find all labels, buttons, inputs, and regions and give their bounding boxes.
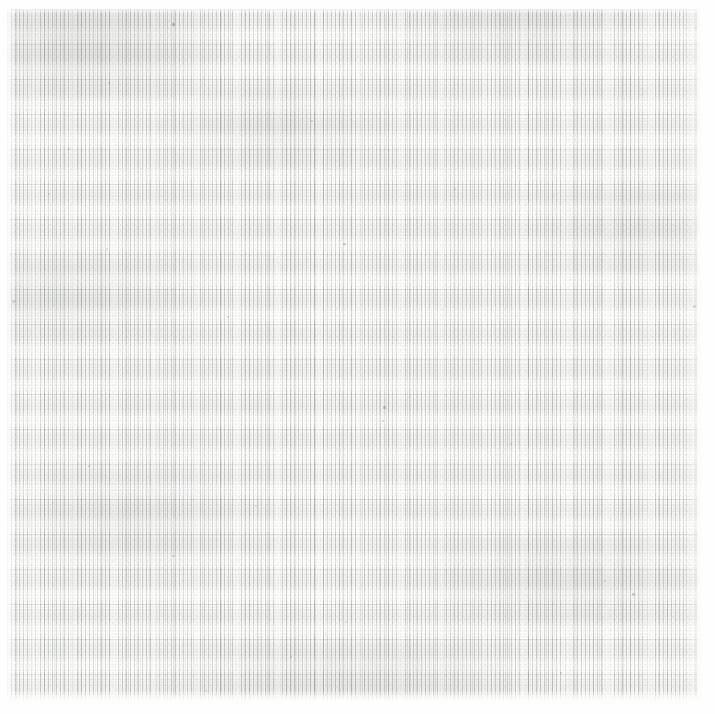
artwork-canvas (0, 0, 715, 714)
graphite-drawing-field (7, 9, 701, 701)
edge-fade-layer (7, 9, 701, 701)
